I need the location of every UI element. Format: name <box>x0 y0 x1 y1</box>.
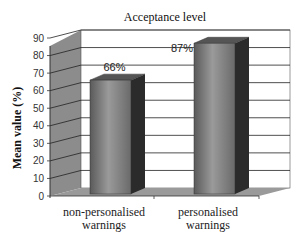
bar-front-face <box>90 80 131 194</box>
bar-value-label: 87% <box>171 42 193 54</box>
y-tick-label: 60 <box>33 85 45 96</box>
y-axis-ticks: 0102030405060708090 <box>33 33 50 202</box>
bar-side-face <box>235 37 249 194</box>
bar-2 <box>194 37 249 194</box>
bar-side-face <box>131 74 145 194</box>
y-tick-label: 30 <box>33 138 45 149</box>
bar-front-face <box>194 43 235 194</box>
chart-title: Acceptance level <box>124 10 207 24</box>
side-wall <box>50 30 81 196</box>
y-tick-label: 0 <box>38 191 44 202</box>
bar-value-label: 66% <box>103 61 125 73</box>
floor <box>50 188 290 196</box>
x-category-label: warnings <box>82 218 126 232</box>
x-category-label: personalised <box>178 205 238 219</box>
y-tick-label: 10 <box>33 173 45 184</box>
x-category-label: warnings <box>186 218 230 232</box>
y-axis-label: Mean value (%) <box>10 87 24 170</box>
y-tick-label: 70 <box>33 68 45 79</box>
y-tick-label: 80 <box>33 50 45 61</box>
y-tick-label: 50 <box>33 103 45 114</box>
bar-1 <box>90 74 145 194</box>
x-category-label: non-personalised <box>63 205 145 219</box>
y-tick-label: 40 <box>33 120 45 131</box>
x-axis-categories: non-personalisedwarningspersonalisedwarn… <box>63 205 238 232</box>
y-tick-label: 90 <box>33 33 45 44</box>
acceptance-level-chart: Acceptance level 0102030405060708090 66%… <box>0 0 307 245</box>
y-tick-label: 20 <box>33 155 45 166</box>
